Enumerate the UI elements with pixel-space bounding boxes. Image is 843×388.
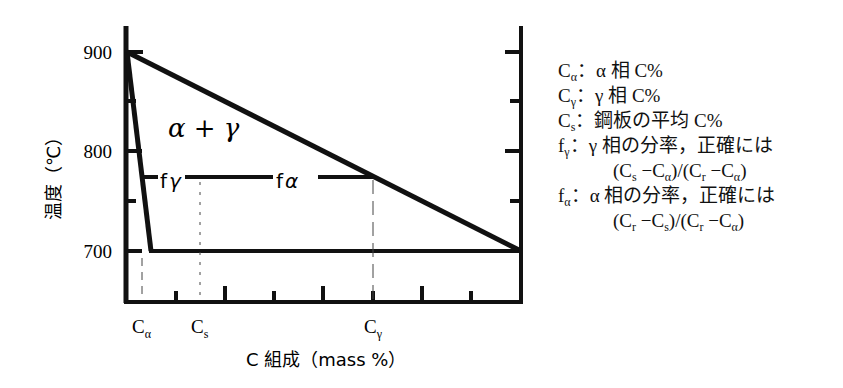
legend-formula-f-alpha: (Cr −Cs)/(Cr −Cα) <box>558 208 775 233</box>
right-ticks <box>505 52 521 201</box>
region-label: α + γ <box>168 113 240 143</box>
y-tick-800: 800 <box>84 141 113 162</box>
f-gamma-label: fγ <box>160 169 182 193</box>
bottom-ticks <box>176 286 471 302</box>
x-tick-c-alpha: Cα <box>132 316 152 341</box>
x-tick-c-gamma: Cγ <box>364 316 383 341</box>
legend-item-c-s: Cs：鋼板の平均 C% <box>558 108 775 133</box>
x-tick-c-s: Cs <box>191 316 209 341</box>
y-tick-700: 700 <box>84 241 113 262</box>
legend-item-c-alpha: Cα：α 相 C% <box>558 58 775 83</box>
x-axis-label: C 組成（mass %） <box>246 349 406 370</box>
legend-item-f-gamma: fγ：γ 相の分率，正確には <box>558 133 775 158</box>
f-alpha-label: fα <box>276 169 298 193</box>
legend-item-c-gamma: Cγ：γ 相 C% <box>558 83 775 108</box>
legend: Cα：α 相 C% Cγ：γ 相 C% Cs：鋼板の平均 C% fγ：γ 相の分… <box>558 58 775 233</box>
y-tick-900: 900 <box>84 42 113 63</box>
y-axis-label: 温度（℃） <box>43 128 64 220</box>
gamma-boundary-line <box>127 52 521 251</box>
legend-item-f-alpha: fα：α 相の分率，正確には <box>558 183 775 208</box>
legend-formula-f-gamma: (Cs −Cα)/(Cr −Cα) <box>558 158 775 183</box>
